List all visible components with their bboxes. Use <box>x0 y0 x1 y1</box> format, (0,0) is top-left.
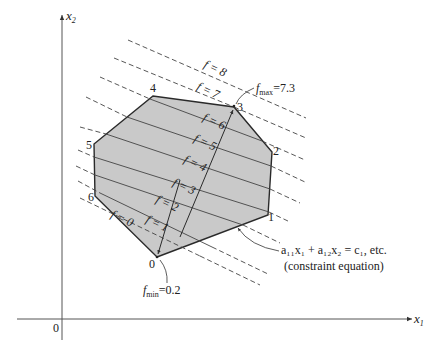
vertex-label-4: 4 <box>150 81 156 95</box>
y-axis-label: x2 <box>65 8 76 25</box>
constraint-caption: (constraint equation) <box>284 259 384 273</box>
vertex-label-1: 1 <box>268 210 274 224</box>
fmin-annotation: fmin=0.2 <box>143 283 181 299</box>
isoline-label-f7: f = 7 <box>195 79 223 102</box>
fmax-annotation: fmax=7.3 <box>256 81 295 97</box>
vertex-label-0: 0 <box>149 257 155 271</box>
vertex-label-2: 2 <box>273 144 279 158</box>
min-point-dot <box>156 256 159 259</box>
vertex-label-6: 6 <box>88 190 94 204</box>
fmin-leader <box>160 260 167 283</box>
constraint-equation: a₁₁x₁ + a₁₂x₂ = c₁, etc. <box>281 243 387 257</box>
max-point-dot <box>233 105 236 108</box>
isoline-label-f8: f = 8 <box>202 57 229 80</box>
origin-label: 0 <box>53 321 59 335</box>
x-axis-label: x1 <box>413 311 424 328</box>
lp-diagram: x2 x1 0 0 1 2 3 4 5 6 f = 0 f = 1 f = 2 … <box>0 0 427 356</box>
vertex-label-5: 5 <box>86 138 92 152</box>
vertex-label-3: 3 <box>237 100 243 114</box>
diagram-canvas: x2 x1 0 0 1 2 3 4 5 6 f = 0 f = 1 f = 2 … <box>0 0 427 356</box>
